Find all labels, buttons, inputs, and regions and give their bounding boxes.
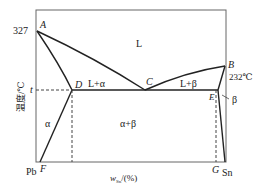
point-b: B xyxy=(228,59,234,70)
region-l-alpha: L+α xyxy=(88,78,106,89)
point-c: C xyxy=(146,76,153,87)
region-l-beta: L+β xyxy=(180,78,197,89)
solidus-be xyxy=(218,66,225,90)
phase-diagram: 327 t 温度/℃ A B C D E F G 232℃ L L+α L+β … xyxy=(0,0,264,192)
pb-label: Pb xyxy=(26,166,37,177)
region-liquid: L xyxy=(136,38,142,49)
region-alpha-beta: α+β xyxy=(120,118,136,129)
tick-t: t xyxy=(30,84,33,95)
x-axis-suffix: /(%) xyxy=(121,173,137,183)
diagram-frame xyxy=(36,10,226,162)
sn-melting-label: 232℃ xyxy=(229,72,253,82)
point-a: A xyxy=(39,19,47,30)
region-beta: β xyxy=(232,94,237,105)
point-f: F xyxy=(39,163,47,174)
sn-label: Sn xyxy=(222,167,233,178)
y-axis-label: 温度/℃ xyxy=(15,81,26,112)
region-alpha: α xyxy=(45,118,51,129)
tick-327: 327 xyxy=(13,25,28,36)
x-axis-label: wSn/(%) xyxy=(110,173,137,184)
point-g: G xyxy=(212,164,219,175)
point-e: E xyxy=(208,92,215,102)
point-d: D xyxy=(74,79,83,90)
solvus-eg xyxy=(218,90,225,162)
